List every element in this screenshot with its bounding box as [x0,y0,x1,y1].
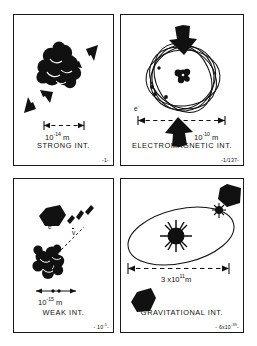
planet-earth-icon [212,203,226,218]
panel-gravitational-strength: - 6x10-39- [215,323,239,330]
electromagnetic-scale-label: 10-10 m [194,131,218,142]
panel-strong-title: STRONG INT. [14,141,113,150]
dimension-line [44,121,84,130]
neutrino-track [54,227,84,257]
panel-electromagnetic-title: ELECTROMAGNETIC INT. [121,141,243,150]
electron-label-em: e- [134,104,139,112]
nucleus-dot [175,69,191,83]
dimension-line [36,288,76,293]
antineutrino-label-weak: v [72,229,75,236]
panel-electromagnetic[interactable]: e- 10-10 m ELECTROMAGNETIC INT. -1/137- [120,14,244,166]
arrow-lower-left-icon [24,90,53,113]
sun-star-icon [160,220,192,252]
panel-grid: 10-14 m STRONG INT. -1- [13,14,244,333]
arrow-upper-right-icon [69,45,98,68]
overline-bar [72,228,74,229]
arrow-top-right-icon [218,184,241,207]
strong-scale-label: 10-14 m [45,131,69,142]
panel-weak[interactable]: e- v 10-15 m WEAK INT. - 10-5- [13,178,114,333]
panel-weak-title: WEAK INT. [14,308,113,317]
panel-gravitational-title: GRAVITATIONAL INT. [121,308,243,317]
panel-electromagnetic-strength: -1/137- [221,156,239,163]
weak-scale-label: 10-15 m [38,296,62,307]
panel-gravitational[interactable]: 3 x1011m GRAVITATIONAL INT. - 6x10-39- [120,178,244,333]
panel-strong[interactable]: 10-14 m STRONG INT. -1- [13,14,114,166]
decay-tracks [67,205,94,224]
nucleus-cluster [32,245,64,279]
panel-strong-strength: -1- [102,156,109,163]
panel-weak-strength: - 10-5- [94,323,109,330]
electron-label-weak: e- [48,222,53,230]
gravitational-scale-label: 3 x1011m [161,273,191,284]
interactions-figure: 10-14 m STRONG INT. -1- [0,0,257,346]
